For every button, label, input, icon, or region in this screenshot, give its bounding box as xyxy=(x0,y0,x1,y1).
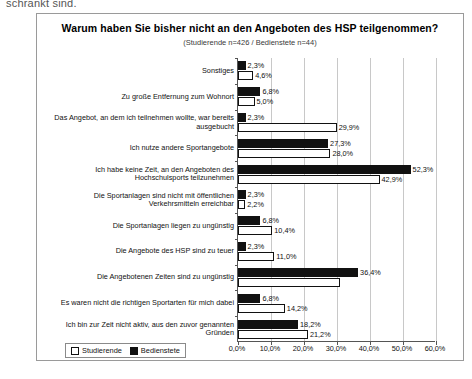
bar-value-label: 6,8% xyxy=(262,294,279,303)
chart-screenshot: schränkt sind. Warum haben Sie bisher ni… xyxy=(0,0,472,379)
legend-item-studierende: Studierende xyxy=(71,346,122,355)
chart-legend: Studierende Bedienstete xyxy=(65,343,186,358)
legend-item-bedienstete: Bedienstete xyxy=(130,346,180,355)
category-label: Die Sportanlagen liegen zu ungünstig xyxy=(49,213,234,239)
chart-subtitle: (Studierende n=426 / Bedienstete n=44) xyxy=(37,38,463,47)
bar-studierende xyxy=(238,226,272,235)
bar-value-label: 10,4% xyxy=(274,226,295,235)
bar-value-label: 2,3% xyxy=(248,242,265,251)
legend-swatch-bedienstete xyxy=(130,347,138,355)
bar-studierende xyxy=(238,123,337,132)
category-label: Die Angebote des HSP sind zu teuer xyxy=(49,239,234,265)
legend-label-bedienstete: Bedienstete xyxy=(141,346,180,355)
bar-bedienstete xyxy=(238,165,411,174)
bar-studierende xyxy=(238,149,330,158)
bar-value-label: 42,9% xyxy=(382,175,403,184)
x-axis-tick-label: 40,0% xyxy=(359,344,380,353)
bar-row: Die Angebote des HSP sind zu teuer2,3%11… xyxy=(238,239,435,265)
x-axis-tick-label: 0,0% xyxy=(229,344,246,353)
chart-frame: Warum haben Sie bisher nicht an den Ange… xyxy=(36,13,464,361)
chart-title: Warum haben Sie bisher nicht an den Ange… xyxy=(37,22,463,34)
x-axis-tick-label: 30,0% xyxy=(326,344,347,353)
bar-value-label: 4,6% xyxy=(255,71,272,80)
bar-bedienstete xyxy=(238,190,246,199)
bar-bedienstete xyxy=(238,113,246,122)
bar-bedienstete xyxy=(238,242,246,251)
bar-bedienstete xyxy=(238,320,298,329)
bar-value-label: 18,2% xyxy=(300,320,321,329)
bar-row: Zu große Entfernung zum Wohnort6,8%5,0% xyxy=(238,84,435,110)
category-axis-tick xyxy=(235,290,238,291)
bar-value-label: 2,2% xyxy=(247,200,264,209)
bar-row: Sonstiges2,3%4,6% xyxy=(238,58,435,84)
bar-row: Ich habe keine Zeit, an den Angeboten de… xyxy=(238,161,435,187)
bar-studierende xyxy=(238,71,253,80)
bar-value-label: 29,9% xyxy=(339,123,360,132)
bar-bedienstete xyxy=(238,61,246,70)
bar-value-label: 21,2% xyxy=(310,330,331,339)
bar-studierende xyxy=(238,97,255,106)
bar-studierende xyxy=(238,252,274,261)
bar-row: Die Sportanlagen sind nicht mit öffentli… xyxy=(238,187,435,213)
bar-value-label: 27,3% xyxy=(330,139,351,148)
category-label: Es waren nicht die richtigen Sportarten … xyxy=(49,290,234,316)
category-axis-tick xyxy=(235,239,238,240)
bar-studierende xyxy=(238,200,245,209)
category-axis-tick xyxy=(235,187,238,188)
bar-bedienstete xyxy=(238,268,358,277)
bar-value-label: 52,3% xyxy=(413,165,434,174)
category-axis-tick xyxy=(235,110,238,111)
bar-value-label: 2,3% xyxy=(248,113,265,122)
x-axis-tick-label: 10,0% xyxy=(260,344,281,353)
bar-value-label: 28,0% xyxy=(332,149,353,158)
legend-label-studierende: Studierende xyxy=(82,346,122,355)
x-axis-tick-label: 60,0% xyxy=(425,344,446,353)
x-axis-tick-labels: 0,0%10,0%20,0%30,0%40,0%50,0%60,0% xyxy=(237,344,435,358)
bar-studierende xyxy=(238,330,308,339)
bar-bedienstete xyxy=(238,216,260,225)
bar-row: Die Angebotenen Zeiten sind zu ungünstig… xyxy=(238,265,435,291)
category-axis-tick xyxy=(235,161,238,162)
bar-value-label: 14,2% xyxy=(287,304,308,313)
plot-area: Sonstiges2,3%4,6%Zu große Entfernung zum… xyxy=(237,58,435,342)
bar-value-label: 6,8% xyxy=(262,216,279,225)
category-axis-tick xyxy=(235,58,238,59)
page-text-fragment: schränkt sind. xyxy=(6,0,77,9)
x-axis-tick-label: 20,0% xyxy=(293,344,314,353)
bar-value-label: 11,0% xyxy=(276,252,296,261)
category-label: Ich habe keine Zeit, an den Angeboten de… xyxy=(49,161,234,187)
bar-bedienstete xyxy=(238,87,260,96)
bar-value-label: 2,3% xyxy=(248,190,265,199)
legend-swatch-studierende xyxy=(71,347,79,355)
bar-row: Ich nutze andere Sportangebote27,3%28,0% xyxy=(238,135,435,161)
category-label: Ich nutze andere Sportangebote xyxy=(49,135,234,161)
category-axis-tick xyxy=(235,316,238,317)
bar-value-label: 36,4% xyxy=(360,268,381,277)
bar-studierende xyxy=(238,278,340,287)
category-label: Ich bin zur Zeit nicht aktiv, aus den zu… xyxy=(49,316,234,342)
bar-row: Ich bin zur Zeit nicht aktiv, aus den zu… xyxy=(238,316,435,342)
x-axis-tick-label: 50,0% xyxy=(392,344,413,353)
bar-rows: Sonstiges2,3%4,6%Zu große Entfernung zum… xyxy=(238,58,435,341)
bar-row: Die Sportanlagen liegen zu ungünstig6,8%… xyxy=(238,213,435,239)
category-label: Die Angebotenen Zeiten sind zu ungünstig xyxy=(49,265,234,291)
bar-bedienstete xyxy=(238,294,260,303)
bar-row: Es waren nicht die richtigen Sportarten … xyxy=(238,290,435,316)
category-axis-tick xyxy=(235,265,238,266)
category-label: Zu große Entfernung zum Wohnort xyxy=(49,84,234,110)
bar-studierende xyxy=(238,175,380,184)
category-axis-tick xyxy=(235,213,238,214)
category-label: Das Angebot, an dem ich teilnehmen wollt… xyxy=(49,110,234,136)
category-label: Die Sportanlagen sind nicht mit öffentli… xyxy=(49,187,234,213)
bar-value-label: 6,8% xyxy=(262,87,279,96)
bar-studierende xyxy=(238,304,285,313)
bar-value-label: 5,0% xyxy=(257,97,274,106)
bar-row: Das Angebot, an dem ich teilnehmen wollt… xyxy=(238,110,435,136)
category-axis-tick xyxy=(235,84,238,85)
category-axis-tick xyxy=(235,135,238,136)
bar-value-label: 2,3% xyxy=(248,61,265,70)
bar-bedienstete xyxy=(238,139,328,148)
category-label: Sonstiges xyxy=(49,58,234,84)
gridline xyxy=(436,58,437,341)
